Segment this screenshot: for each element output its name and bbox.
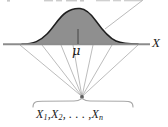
top-caption-remnants [7, 0, 142, 2]
bell-curve-area [22, 9, 138, 44]
sample-term-n: Xn [91, 107, 103, 121]
sample-term-1: X1, [36, 107, 51, 121]
x-axis-label: X [152, 36, 160, 49]
sample-list-label: X1,X2, . . . ,Xn [36, 108, 103, 122]
sample-ellipsis: . . . , [69, 107, 91, 121]
fan-line [82, 45, 138, 97]
fan-line [82, 45, 112, 97]
sample-brace [33, 98, 133, 107]
mean-label: μ [72, 44, 80, 57]
normal-distribution-figure: X μ X1,X2, . . . ,Xn [0, 0, 168, 127]
leader-line [105, 0, 143, 29]
fan-line [82, 45, 93, 97]
sample-term-2: X2, [51, 107, 66, 121]
